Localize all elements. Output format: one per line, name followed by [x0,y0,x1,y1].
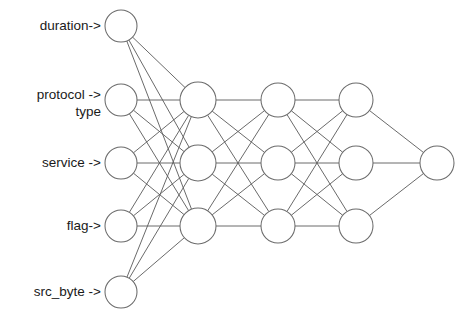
network-canvas: duration->protocol ->typeservice ->flag-… [0,0,475,329]
neural-network-diagram: duration->protocol ->typeservice ->flag-… [0,0,475,329]
node-h1-3 [180,208,216,244]
node-in-1 [105,10,137,42]
input-label-src-byte: src_byte -> [34,284,101,299]
node-in-4 [105,210,137,242]
connection-edge [369,110,423,152]
connection-edge [212,174,265,215]
node-in-3 [105,147,137,179]
node-h3-3 [339,209,373,243]
connection-edge [133,37,185,87]
node-h3-2 [339,146,373,180]
connection-edge [369,173,423,215]
node-h2-3 [261,209,295,243]
node-h1-1 [180,82,216,118]
node-in-2 [105,84,137,116]
connection-edge [133,110,184,151]
connection-edge [212,111,265,152]
input-label-service: service -> [42,155,101,170]
node-out-1 [420,146,454,180]
input-label-protocol-type: protocol ->type [37,87,101,119]
connection-edge [212,174,265,215]
node-h1-2 [180,145,216,181]
node-h2-2 [261,146,295,180]
connection-edge [127,117,191,277]
input-label-duration: duration-> [40,18,101,33]
connection-edge [212,111,265,152]
connection-edge [133,174,184,215]
node-in-5 [105,276,137,308]
node-h3-1 [339,83,373,117]
input-label-flag: flag-> [67,218,101,233]
input-labels-group: duration->protocol ->typeservice ->flag-… [34,18,101,299]
node-h2-1 [261,83,295,117]
